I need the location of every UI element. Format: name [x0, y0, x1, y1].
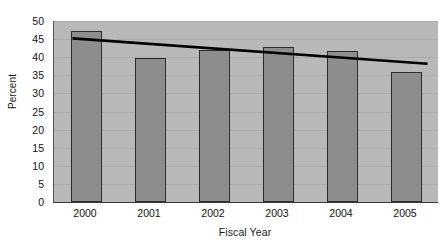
y-axis-title: Percent	[7, 57, 18, 127]
x-axis-tick-label: 2003	[247, 207, 307, 219]
x-axis-tick-label: 2000	[55, 207, 115, 219]
plot-area	[53, 21, 438, 203]
trend-line-layer	[54, 21, 438, 202]
y-axis-tick-label: 35	[18, 70, 44, 80]
y-axis-tick-label: 0	[18, 197, 44, 207]
trend-line	[73, 38, 428, 63]
y-axis-tick-label: 10	[18, 161, 44, 171]
y-axis-tick-label: 15	[18, 143, 44, 153]
y-axis-tick-label: 45	[18, 34, 44, 44]
y-axis-tick-labels: 05101520253035404550	[18, 0, 44, 244]
bar-chart: Percent 05101520253035404550 20002001200…	[0, 0, 445, 244]
x-axis-tick-label: 2005	[375, 207, 435, 219]
y-axis-tick-label: 25	[18, 107, 44, 117]
y-axis-tick-label: 20	[18, 125, 44, 135]
x-axis-title: Fiscal Year	[53, 226, 437, 238]
x-axis-tick-label: 2001	[119, 207, 179, 219]
y-axis-tick-label: 50	[18, 16, 44, 26]
x-axis-tick-label: 2004	[311, 207, 371, 219]
y-axis-tick-label: 5	[18, 179, 44, 189]
y-axis-tick-label: 40	[18, 52, 44, 62]
y-axis-tick-label: 30	[18, 88, 44, 98]
x-axis-tick-label: 2002	[183, 207, 243, 219]
x-axis-tick-labels: 200020012002200320042005	[53, 207, 437, 223]
